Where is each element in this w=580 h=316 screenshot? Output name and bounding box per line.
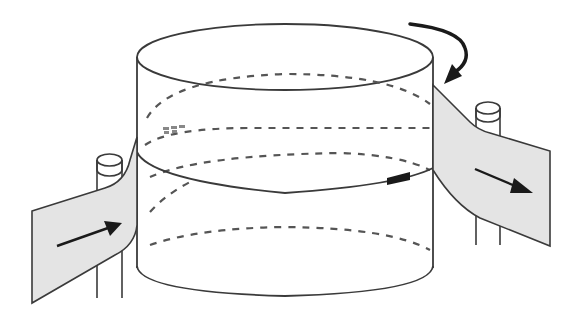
hidden-belt-edges — [145, 74, 430, 250]
diagram-canvas: Helical belt wrapping around a cylindric… — [0, 0, 580, 316]
cylinder-drum — [137, 24, 433, 296]
belt-drum-diagram — [0, 0, 580, 316]
illegible-small-label — [163, 125, 185, 134]
belt-marker-block — [387, 172, 410, 185]
